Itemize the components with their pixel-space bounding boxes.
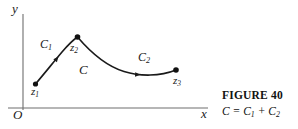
point-label-z3-sub: 3 bbox=[177, 79, 181, 88]
curve-label-c1: C1 bbox=[40, 38, 52, 52]
direction-arrow-c2 bbox=[135, 72, 141, 77]
point-z2 bbox=[75, 34, 81, 40]
point-label-z2-sub: 2 bbox=[74, 46, 78, 55]
point-z3 bbox=[173, 67, 179, 73]
caption-title: FIGURE 40 bbox=[222, 89, 298, 102]
curve-label-c: C bbox=[79, 63, 88, 76]
point-label-z3: z3 bbox=[173, 75, 181, 87]
curve-label-c1-sub: 1 bbox=[48, 43, 52, 52]
point-label-z2: z2 bbox=[70, 42, 78, 54]
curve-label-c2-base: C bbox=[138, 50, 146, 64]
caption-formula-sub2: 2 bbox=[276, 110, 280, 119]
origin-label: O bbox=[13, 108, 22, 121]
curve-label-c2: C2 bbox=[138, 51, 150, 65]
point-label-z1-sub: 1 bbox=[35, 90, 39, 99]
caption-formula-mid: + C bbox=[255, 105, 276, 117]
caption-formula-lead: C = C bbox=[222, 105, 251, 117]
y-axis-label: y bbox=[12, 2, 18, 15]
point-label-z1: z1 bbox=[31, 86, 39, 98]
curve-label-c1-base: C bbox=[40, 37, 48, 51]
curve-segment-c2 bbox=[78, 37, 177, 75]
figure-container: y x O z1 z2 z3 C1 C2 C FIGURE 40 C = C1 … bbox=[0, 0, 298, 129]
curve-label-c2-sub: 2 bbox=[146, 56, 150, 65]
caption-formula: C = C1 + C2 bbox=[222, 104, 298, 122]
figure-caption: FIGURE 40 C = C1 + C2 bbox=[222, 89, 298, 122]
x-axis-label: x bbox=[201, 107, 207, 120]
